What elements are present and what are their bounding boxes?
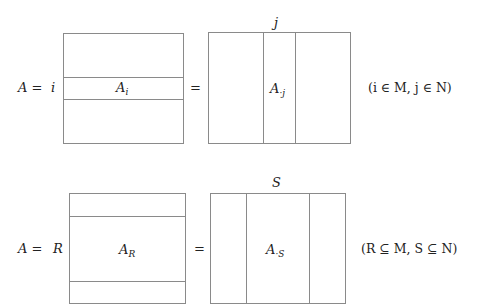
row-set-block-label: AR [119, 243, 135, 259]
row-divider-top [63, 77, 184, 78]
column-set-divider-left [246, 193, 247, 304]
column-set-block-label: A·S [266, 243, 284, 259]
lhs-label: A = [18, 242, 42, 255]
column-divider-left [263, 32, 264, 144]
row-index-label: i [51, 81, 55, 94]
column-set-label: S [272, 176, 281, 189]
row-set-divider-top [69, 216, 186, 217]
row-block-label: Ai [116, 81, 128, 97]
column-index-label: j [274, 16, 278, 29]
lhs-label: A = [18, 81, 42, 94]
equals-sign: = [194, 242, 205, 255]
index-condition: (i ∈ M, j ∈ N) [368, 82, 452, 95]
equals-sign: = [190, 81, 201, 94]
subset-condition: (R ⊆ M, S ⊆ N) [361, 243, 457, 256]
column-block-label: A·j [270, 82, 285, 98]
row-divider-bottom [63, 99, 184, 100]
row-set-label: R [53, 242, 63, 255]
column-set-divider-right [309, 193, 310, 304]
row-set-divider-bottom [69, 281, 186, 282]
column-divider-right [295, 32, 296, 144]
